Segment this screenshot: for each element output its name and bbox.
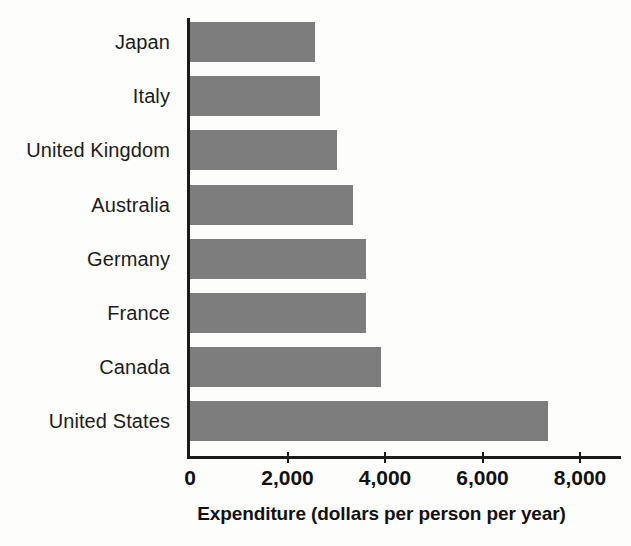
tick-mark-2000 xyxy=(287,452,289,463)
bar-rect xyxy=(190,293,366,333)
tick-mark-8000 xyxy=(579,452,581,463)
category-axis-labels: JapanItalyUnited KingdomAustraliaGermany… xyxy=(0,22,180,456)
bar-rect xyxy=(190,239,366,279)
bar-chart: JapanItalyUnited KingdomAustraliaGermany… xyxy=(0,0,631,546)
tick-label-6000: 6,000 xyxy=(456,466,509,490)
bar-canada xyxy=(190,347,381,387)
category-label-france: France xyxy=(107,293,170,333)
tick-label-8000: 8,000 xyxy=(554,466,607,490)
category-label-japan: Japan xyxy=(115,22,170,62)
category-label-italy: Italy xyxy=(133,76,170,116)
bar-germany xyxy=(190,239,366,279)
bar-rect xyxy=(190,130,337,170)
tick-label-4000: 4,000 xyxy=(359,466,412,490)
category-label-united-kingdom: United Kingdom xyxy=(26,130,170,170)
bar-france xyxy=(190,293,366,333)
bar-rect xyxy=(190,401,548,441)
category-label-germany: Germany xyxy=(87,239,170,279)
tick-label-2000: 2,000 xyxy=(261,466,314,490)
bar-united-kingdom xyxy=(190,130,337,170)
bar-rect xyxy=(190,347,381,387)
bar-italy xyxy=(190,76,320,116)
category-label-united-states: United States xyxy=(49,401,170,441)
bar-australia xyxy=(190,185,353,225)
category-label-canada: Canada xyxy=(99,347,170,387)
bar-rect xyxy=(190,185,353,225)
tick-label-0: 0 xyxy=(184,466,196,490)
tick-mark-6000 xyxy=(482,452,484,463)
bar-japan xyxy=(190,22,315,62)
x-axis-line xyxy=(187,456,621,459)
bar-rect xyxy=(190,76,320,116)
x-axis-title: Expenditure (dollars per person per year… xyxy=(0,503,631,525)
bar-united-states xyxy=(190,401,548,441)
bars-group xyxy=(190,22,630,456)
category-label-australia: Australia xyxy=(91,185,170,225)
x-axis-title-text: Expenditure (dollars per person per year… xyxy=(65,503,566,525)
plot-area: JapanItalyUnited KingdomAustraliaGermany… xyxy=(0,0,631,546)
tick-mark-4000 xyxy=(384,452,386,463)
bar-rect xyxy=(190,22,315,62)
